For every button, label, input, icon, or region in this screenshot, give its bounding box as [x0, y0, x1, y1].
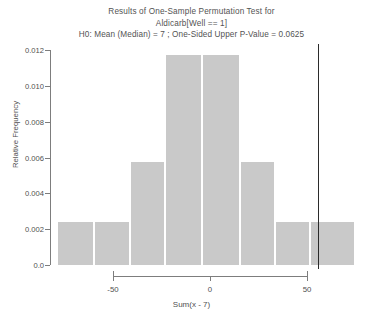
chart-subtitle: Aldicarb[Well == 1]	[0, 18, 383, 30]
y-tick-0.010	[45, 86, 50, 87]
y-axis-line	[50, 50, 51, 265]
y-axis-title: Relative Frequency	[11, 90, 20, 180]
x-tick-label--50: -50	[93, 285, 133, 294]
histogram-bar	[275, 222, 310, 265]
y-tick-label-0.002: 0.002	[10, 225, 44, 234]
histogram-bar	[57, 222, 94, 265]
x-tick-label-50: 50	[287, 285, 327, 294]
chart-title: Results of One-Sample Permutation Test f…	[0, 6, 383, 18]
x-tick--50	[113, 276, 114, 281]
permutation-test-histogram: Results of One-Sample Permutation Test f…	[0, 0, 383, 326]
chart-title-block: Results of One-Sample Permutation Test f…	[0, 6, 383, 41]
histogram-bar	[94, 222, 129, 265]
y-tick-label-0.004: 0.004	[10, 189, 44, 198]
y-tick-0.004	[45, 193, 50, 194]
y-tick-label-0.012: 0.012	[10, 46, 44, 55]
histogram-bar	[202, 55, 239, 265]
x-tick-50	[307, 276, 308, 281]
x-tick-label-0: 0	[190, 285, 230, 294]
histogram-bar	[165, 55, 202, 265]
x-tick-0	[210, 276, 211, 281]
histogram-bar	[240, 162, 275, 265]
y-tick-0.012	[45, 50, 50, 51]
plot-area	[57, 45, 355, 265]
y-tick-label-0.0: 0.0	[10, 261, 44, 270]
y-tick-0.0	[45, 265, 50, 266]
observed-statistic-line	[318, 44, 319, 269]
y-tick-0.006	[45, 158, 50, 159]
histogram-bar	[130, 162, 165, 265]
y-tick-0.008	[45, 122, 50, 123]
y-tick-0.002	[45, 229, 50, 230]
chart-hypothesis-line: H0: Mean (Median) = 7 ; One-Sided Upper …	[0, 29, 383, 41]
x-axis-title: Sum(x - 7)	[0, 300, 383, 309]
